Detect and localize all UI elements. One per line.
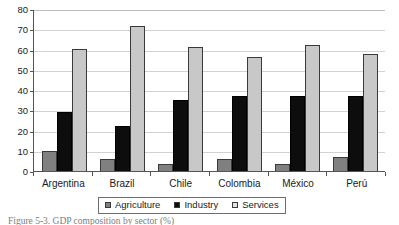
category-label-per: Perú — [327, 178, 386, 190]
y-axis-tick — [30, 71, 34, 72]
bar-agriculture — [333, 157, 348, 171]
legend-swatch-icon — [105, 202, 111, 208]
figure-container: 01020304050607080 ArgentinaBrazilChileCo… — [0, 0, 399, 225]
legend-label: Services — [242, 199, 278, 211]
legend-item-agriculture: Agriculture — [105, 199, 160, 211]
y-axis-tick-label: 0 — [23, 167, 28, 177]
category-axis-tick — [33, 172, 34, 176]
category-label-mxico: México — [269, 178, 328, 190]
legend-item-industry: Industry — [174, 199, 218, 211]
bar-services — [72, 49, 87, 172]
bar-group — [93, 10, 151, 171]
legend-swatch-icon — [174, 202, 180, 208]
legend-label: Industry — [184, 199, 218, 211]
category-axis-tick — [268, 172, 269, 176]
y-axis-tick-label: 60 — [17, 46, 28, 56]
bar-services — [130, 26, 145, 171]
category-axis-tick — [209, 172, 210, 176]
y-axis-tick-label: 40 — [17, 86, 28, 96]
y-axis-tick — [30, 91, 34, 92]
category-label-argentina: Argentina — [34, 178, 93, 190]
bar-agriculture — [158, 164, 173, 171]
y-axis-tick-label: 20 — [17, 127, 28, 137]
y-axis-tick — [30, 10, 34, 11]
plot-area: 01020304050607080 — [33, 10, 385, 172]
y-axis-tick — [30, 111, 34, 112]
category-label-chile: Chile — [151, 178, 210, 190]
category-axis-tick — [385, 172, 386, 176]
y-axis-tick — [30, 51, 34, 52]
bar-agriculture — [217, 159, 232, 171]
y-axis-tick — [30, 30, 34, 31]
y-axis-tick — [30, 132, 34, 133]
y-axis-tick-label: 80 — [17, 5, 28, 15]
bar-services — [305, 45, 320, 171]
y-axis-tick-label: 10 — [17, 147, 28, 157]
category-axis-labels: ArgentinaBrazilChileColombiaMéxicoPerú — [34, 178, 386, 190]
category-label-colombia: Colombia — [210, 178, 269, 190]
bar-group — [35, 10, 93, 171]
bar-industry — [232, 96, 247, 171]
bar-services — [363, 54, 378, 171]
legend-swatch-icon — [232, 202, 238, 208]
y-axis-tick-label: 70 — [17, 26, 28, 36]
bar-industry — [173, 100, 188, 171]
bar-industry — [115, 126, 130, 171]
y-axis-tick — [30, 152, 34, 153]
y-axis-tick-label: 50 — [17, 66, 28, 76]
category-axis-tick — [150, 172, 151, 176]
figure-caption: Figure 5-3. GDP composition by sector (%… — [8, 216, 174, 225]
bar-industry — [348, 96, 363, 171]
bar-group — [327, 10, 385, 171]
y-axis-tick-label: 30 — [17, 107, 28, 117]
legend-item-services: Services — [232, 199, 278, 211]
legend-label: Agriculture — [115, 199, 160, 211]
category-axis-tick — [326, 172, 327, 176]
bar-agriculture — [42, 151, 57, 171]
category-label-brazil: Brazil — [93, 178, 152, 190]
chart-legend: AgricultureIndustryServices — [98, 197, 286, 214]
bar-services — [188, 47, 203, 171]
bar-group — [210, 10, 268, 171]
category-axis-tick — [92, 172, 93, 176]
bar-agriculture — [100, 159, 115, 171]
bars-layer — [35, 10, 385, 171]
bar-services — [247, 57, 262, 171]
category-axis-ticks — [33, 172, 385, 177]
bar-industry — [57, 112, 72, 171]
bar-industry — [290, 96, 305, 171]
bar-group — [152, 10, 210, 171]
bar-agriculture — [275, 164, 290, 171]
bar-group — [268, 10, 326, 171]
